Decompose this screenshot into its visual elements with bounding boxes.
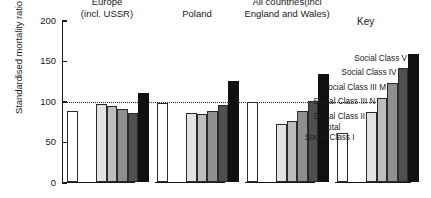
group-title-2: All countries(incl England and Wales) — [217, 0, 357, 21]
group-baseline-1 — [155, 182, 225, 183]
bar-3-5 — [408, 54, 419, 182]
key-title: Key — [357, 16, 374, 27]
bar-1-1 — [186, 113, 197, 182]
bar-3-1 — [366, 112, 377, 182]
group-baseline-3 — [335, 182, 411, 183]
key-label-3: Social Class III N — [0, 97, 376, 106]
bar-0-0 — [67, 111, 78, 181]
key-label-0: Social Class V — [0, 54, 407, 63]
key-label-1: Social Class IV — [0, 68, 397, 77]
key-label-2: Social Class III M — [0, 83, 386, 92]
bar-1-2 — [197, 114, 208, 182]
bar-0-4 — [128, 113, 139, 182]
bar-1-3 — [207, 111, 218, 182]
y-tick-label-0: 0 — [18, 178, 56, 188]
bar-2-3 — [297, 111, 308, 181]
bar-3-4 — [398, 68, 409, 181]
bar-2-2 — [287, 121, 298, 182]
bar-3-3 — [387, 83, 398, 182]
key-label-4: Social Class II — [0, 112, 365, 121]
bar-3-2 — [377, 98, 388, 182]
key-label-6: Total — [323, 123, 340, 132]
key-label-5: Social Class I — [0, 133, 355, 142]
group-baseline-2 — [245, 182, 315, 183]
chart-container: Standardised mortality ratio 20015010050… — [0, 0, 431, 198]
bar-1-5 — [228, 81, 239, 182]
group-baseline-0 — [65, 182, 135, 183]
